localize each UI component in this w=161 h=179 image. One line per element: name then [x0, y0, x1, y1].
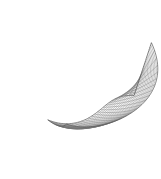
mesh-line [61, 61, 146, 129]
mesh-line [60, 66, 144, 129]
mesh-line [60, 63, 145, 128]
mesh-line-group [48, 43, 158, 129]
wireframe-figure [0, 0, 161, 179]
mesh-line [64, 52, 152, 129]
mesh-line [65, 47, 155, 128]
mesh-line [51, 87, 137, 126]
mesh-line [67, 43, 158, 127]
mesh-line [65, 49, 154, 128]
mesh-line [63, 54, 150, 129]
mesh-line [54, 81, 139, 127]
mesh-surface-plot [0, 0, 161, 179]
